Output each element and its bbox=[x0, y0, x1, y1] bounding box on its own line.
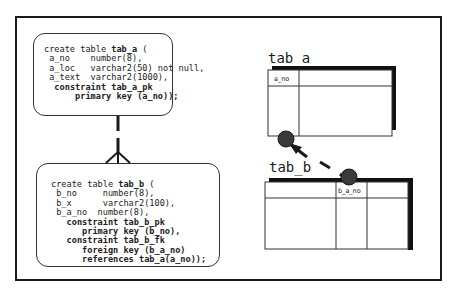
crows-foot-icon bbox=[106, 116, 130, 163]
foreign-key-arrow bbox=[289, 143, 345, 178]
column-header-b-a-no: b_a_no bbox=[338, 187, 361, 195]
pk-endpoint-dot bbox=[278, 131, 294, 147]
diagram-graphics bbox=[0, 0, 463, 302]
fk-endpoint-dot bbox=[341, 169, 357, 185]
column-header-a-no: a_no bbox=[274, 75, 289, 83]
